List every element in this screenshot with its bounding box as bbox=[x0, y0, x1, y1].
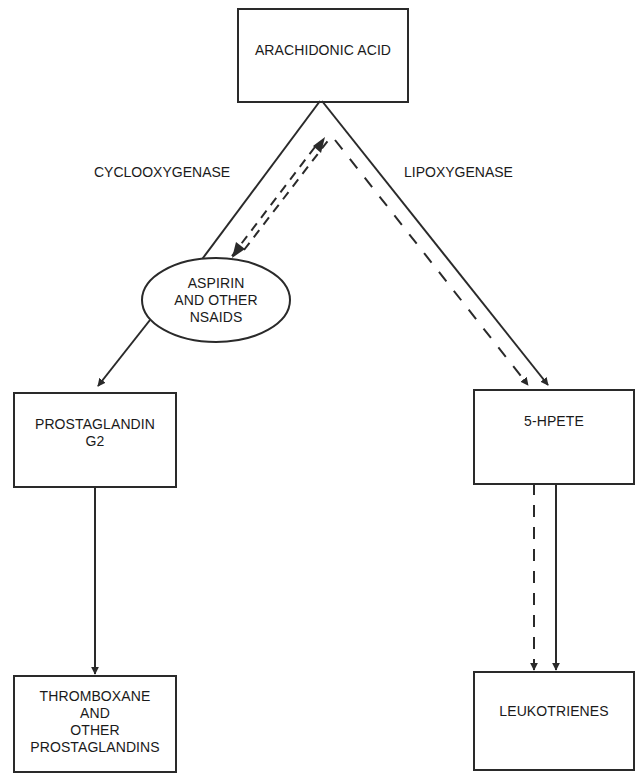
leukotrienes-label: LEUKOTRIENES bbox=[475, 703, 633, 720]
lipoxygenase-line bbox=[322, 101, 548, 385]
cyclooxygenase-label: CYCLOOXYGENASE bbox=[94, 164, 230, 180]
cyclooxygenase-line bbox=[200, 101, 320, 262]
aspirin-line-3: NSAIDS bbox=[146, 309, 286, 326]
aspirin-line-2: AND OTHER bbox=[146, 292, 286, 309]
5-hpete-label: 5-HPETE bbox=[475, 413, 633, 430]
leukotrienes-node: LEUKOTRIENES bbox=[473, 671, 635, 771]
thromboxane-line-3: OTHER bbox=[15, 722, 175, 739]
thromboxane-node: THROMBOXANE AND OTHER PROSTAGLANDINS bbox=[13, 675, 177, 773]
dashed-inhibition-line-b bbox=[244, 138, 330, 250]
thromboxane-line-4: PROSTAGLANDINS bbox=[15, 739, 175, 756]
prostaglandin-g2-label: PROSTAGLANDIN G2 bbox=[15, 416, 175, 450]
arachidonic-acid-node: ARACHIDONIC ACID bbox=[237, 8, 409, 103]
lipoxygenase-label: LIPOXYGENASE bbox=[404, 164, 513, 180]
arachidonic-acid-label: ARACHIDONIC ACID bbox=[239, 42, 407, 59]
aspirin-line-1: ASPIRIN bbox=[146, 275, 286, 292]
prostaglandin-line-1: PROSTAGLANDIN bbox=[15, 416, 175, 433]
prostaglandin-g2-node: PROSTAGLANDIN G2 bbox=[13, 392, 177, 488]
thromboxane-line-2: AND bbox=[15, 705, 175, 722]
aspirin-label: ASPIRIN AND OTHER NSAIDS bbox=[146, 275, 286, 326]
thromboxane-line-1: THROMBOXANE bbox=[15, 688, 175, 705]
nsaid-to-prostaglandin-arrow bbox=[98, 320, 150, 386]
arrow-head-to-arachidonic-icon bbox=[313, 137, 325, 153]
thromboxane-label: THROMBOXANE AND OTHER PROSTAGLANDINS bbox=[15, 688, 175, 756]
prostaglandin-line-2: G2 bbox=[15, 433, 175, 450]
arrow-head-to-nsaid-icon bbox=[232, 242, 245, 258]
5-hpete-node: 5-HPETE bbox=[473, 389, 635, 485]
